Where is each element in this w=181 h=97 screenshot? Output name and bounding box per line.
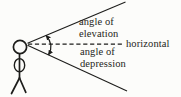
stick-figure-left-leg — [12, 78, 20, 94]
horizontal-label: horizontal — [126, 38, 170, 50]
stick-figure-right-leg — [20, 78, 26, 92]
stick-figure-head — [13, 40, 26, 53]
stick-figure-icon — [12, 40, 27, 93]
angle-arc-arrow — [46, 35, 51, 55]
angle-elevation-depression-diagram: angle of elevation horizontal angle of d… — [0, 0, 181, 97]
angle-of-depression-label: angle of depression — [80, 46, 126, 69]
angle-of-elevation-label: angle of elevation — [79, 16, 118, 39]
